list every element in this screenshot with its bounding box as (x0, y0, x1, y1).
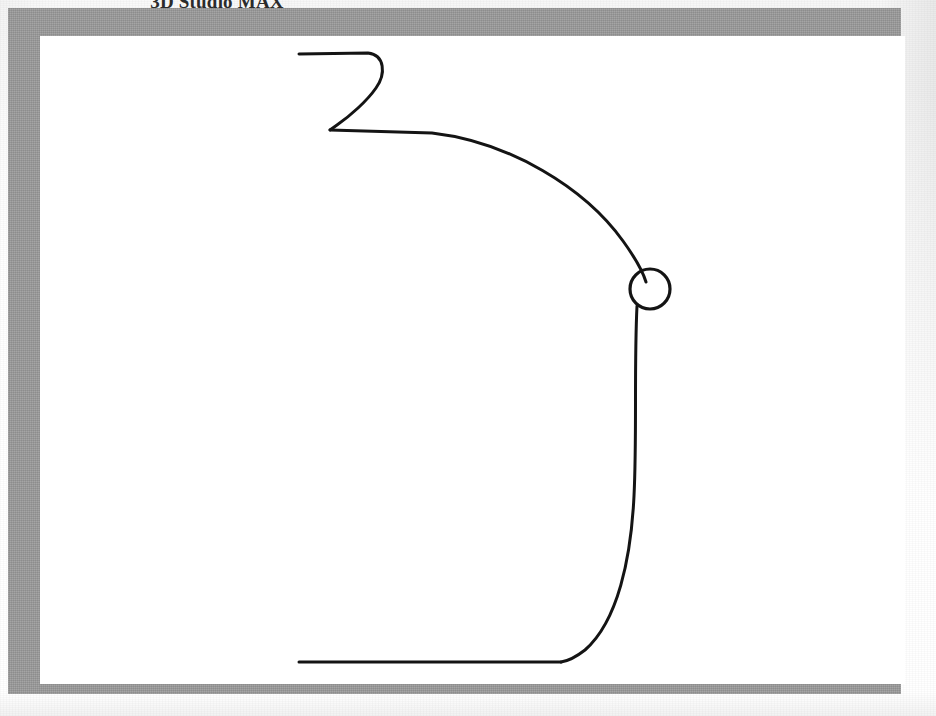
sketch-svg (40, 36, 905, 684)
scanned-page: 3D Studio MAX (0, 0, 936, 716)
upper-arc-segment (330, 130, 646, 282)
drawing-canvas (40, 36, 905, 684)
small-circle-loop (630, 269, 670, 309)
figure-frame (8, 8, 901, 694)
right-vertical-bulge-segment (561, 306, 637, 662)
top-zigzag-segment (299, 53, 382, 130)
